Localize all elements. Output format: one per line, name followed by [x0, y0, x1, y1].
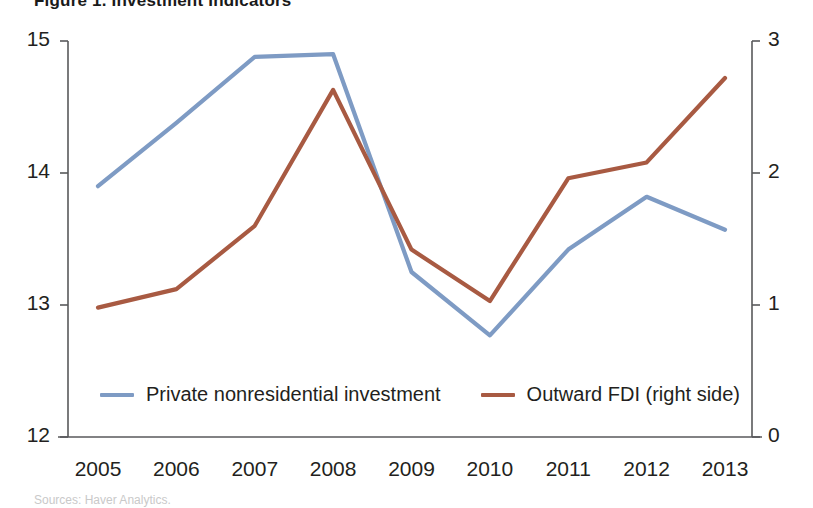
- x-axis-tick-2006: 2006: [136, 457, 216, 481]
- x-axis-tick-2010: 2010: [450, 457, 530, 481]
- x-axis-tick-2011: 2011: [528, 457, 608, 481]
- x-axis-tick-2005: 2005: [58, 457, 138, 481]
- legend-swatch-blue: [100, 393, 134, 397]
- chart-figure: Figure 1. Investment Indicators 15141312…: [0, 0, 813, 508]
- right-axis-tick-2: 2: [768, 159, 812, 183]
- x-axis-tick-2007: 2007: [215, 457, 295, 481]
- right-axis-tick-0: 0: [768, 423, 812, 447]
- left-axis-tick-14: 14: [6, 159, 50, 183]
- left-axis-tick-13: 13: [6, 291, 50, 315]
- chart-legend: Private nonresidential investment Outwar…: [100, 383, 740, 406]
- left-axis-tick-12: 12: [6, 423, 50, 447]
- legend-label-0: Private nonresidential investment: [146, 383, 441, 406]
- right-axis-tick-3: 3: [768, 27, 812, 51]
- x-axis-tick-2008: 2008: [293, 457, 373, 481]
- series-line-0: [98, 54, 725, 335]
- x-axis-tick-2012: 2012: [607, 457, 687, 481]
- right-axis-tick-1: 1: [768, 291, 812, 315]
- x-axis-tick-2009: 2009: [372, 457, 452, 481]
- chart-series-layer: [98, 54, 725, 335]
- legend-swatch-red: [481, 393, 515, 397]
- chart-plot-area: [0, 0, 813, 508]
- figure-footnote: Sources: Haver Analytics.: [34, 493, 171, 507]
- legend-label-1: Outward FDI (right side): [527, 383, 740, 406]
- left-axis-tick-15: 15: [6, 27, 50, 51]
- chart-axes: [58, 41, 762, 437]
- legend-item-outward-fdi: Outward FDI (right side): [481, 383, 740, 406]
- x-axis-tick-2013: 2013: [685, 457, 765, 481]
- legend-item-private-nonresidential-investment: Private nonresidential investment: [100, 383, 441, 406]
